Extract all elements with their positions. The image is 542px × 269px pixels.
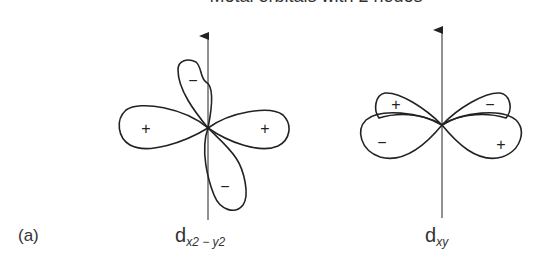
orbital-dxy <box>361 30 522 218</box>
orbital-diagram: + + − − + − − + <box>0 0 542 269</box>
orbital-label-sub: xy <box>436 235 448 249</box>
lobe-left <box>119 106 208 149</box>
sign-upper-left-lobe: + <box>391 96 400 113</box>
sign-left-lobe: + <box>141 120 150 137</box>
sign-lower-left-lobe: − <box>377 134 386 151</box>
sign-right-lobe: + <box>260 120 269 137</box>
orbital-label-dxy: dxy <box>425 224 448 249</box>
lobe-bottom <box>205 128 246 210</box>
sign-top-lobe: − <box>188 72 197 89</box>
lobe-lower-right <box>442 113 521 159</box>
orbital-label-main: d <box>175 224 186 246</box>
panel-label: (a) <box>18 226 39 246</box>
lobe-right <box>208 110 289 148</box>
sign-bottom-lobe: − <box>220 178 229 195</box>
orbital-label-sub: x2 − y2 <box>186 235 225 249</box>
lobe-lower-left <box>361 113 442 159</box>
sign-lower-right-lobe: + <box>496 136 505 153</box>
lobe-top <box>178 60 212 128</box>
orbital-label-main: d <box>425 224 436 246</box>
orbital-label-dx2-y2: dx2 − y2 <box>175 224 225 249</box>
sign-upper-right-lobe: − <box>485 96 494 113</box>
